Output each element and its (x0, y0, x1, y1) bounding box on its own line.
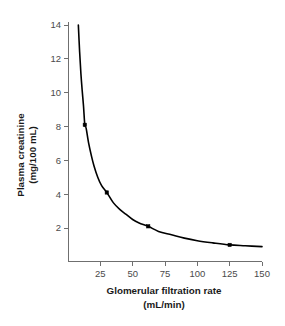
y-axis-title: Plasma creatinine (mg/100 mL) (15, 113, 38, 197)
x-tick-label: 50 (127, 268, 138, 279)
plasma-creatinine-vs-gfr-chart: 2468101214 255075100125150 Plasma creati… (0, 0, 285, 326)
y-tick-label: 2 (56, 222, 61, 233)
x-tick-label: 100 (189, 268, 205, 279)
axes-group (68, 22, 262, 262)
x-tick-label: 125 (222, 268, 238, 279)
axis-lines (68, 22, 262, 262)
y-axis-ticks: 2468101214 (50, 19, 68, 233)
y-tick-label: 10 (50, 87, 61, 98)
data-markers (83, 123, 231, 247)
y-axis-title-line2: (mg/100 mL) (27, 126, 38, 184)
data-point-marker (105, 191, 108, 194)
x-tick-label: 150 (254, 268, 270, 279)
y-tick-label: 12 (50, 53, 61, 64)
y-axis-title-line1: Plasma creatinine (15, 113, 26, 197)
data-point-marker (83, 123, 86, 126)
data-point-marker (146, 225, 149, 228)
x-axis-ticks: 255075100125150 (95, 262, 270, 279)
x-tick-label: 75 (160, 268, 171, 279)
y-tick-label: 6 (56, 155, 61, 166)
y-tick-label: 8 (56, 121, 61, 132)
y-tick-label: 4 (56, 189, 61, 200)
y-tick-label: 14 (50, 19, 61, 30)
x-axis-title: Glomerular filtration rate (mL/min) (107, 285, 222, 310)
x-tick-label: 25 (95, 268, 106, 279)
data-point-marker (228, 243, 231, 246)
chart-figure: 2468101214 255075100125150 Plasma creati… (0, 0, 285, 326)
x-axis-title-line2: (mL/min) (143, 299, 184, 310)
x-axis-title-line1: Glomerular filtration rate (107, 285, 222, 296)
data-curve (78, 25, 262, 247)
